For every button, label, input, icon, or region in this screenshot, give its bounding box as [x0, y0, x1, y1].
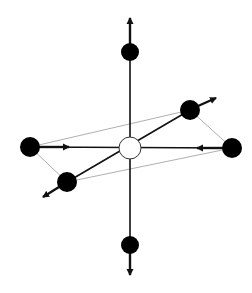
vibration-mode-diagram [0, 0, 252, 293]
ligand-atom-right [222, 138, 242, 158]
ligand-atom-bottom [121, 236, 139, 254]
arrow-up-right-icon [198, 98, 216, 106]
central-atom [119, 137, 141, 159]
ligand-atom-top [121, 43, 139, 61]
ligand-atom-upper-right [180, 100, 200, 120]
arrow-down-left-icon [43, 187, 59, 197]
ligand-atom-lower-left [57, 172, 77, 192]
ligand-atom-left [20, 137, 40, 157]
